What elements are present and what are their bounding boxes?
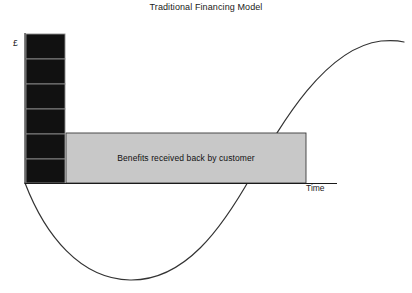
bar-segment [26,159,65,183]
bar-segment [26,84,65,109]
bar-segment [26,109,65,134]
y-axis-label: £ [13,38,18,48]
figure-canvas: Traditional Financing Model £ Time Benef… [0,0,412,293]
bar-segment [26,59,65,84]
benefits-band-rect [66,133,306,183]
chart-plot-area [0,0,412,293]
bar-segment [26,34,65,59]
investment-stacked-bar [26,34,65,183]
bar-segment [26,134,65,159]
x-axis-label: Time [306,183,325,193]
